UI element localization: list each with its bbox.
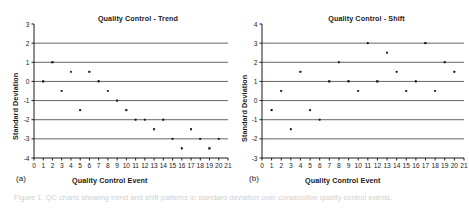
- x-tick-label: 21: [224, 162, 232, 169]
- panel-sublabel-b: (b): [249, 174, 259, 183]
- y-tick-label: 2: [26, 40, 30, 47]
- x-tick-label: 16: [412, 162, 420, 169]
- x-tick-label: 16: [178, 162, 186, 169]
- x-tick-label: 14: [160, 162, 168, 169]
- data-point: [300, 71, 302, 73]
- x-tick-label: 19: [206, 162, 214, 169]
- x-tick-label: 9: [115, 162, 119, 169]
- y-tick-label: -3: [252, 155, 258, 162]
- data-point: [61, 90, 63, 92]
- x-tick-label: 19: [441, 162, 449, 169]
- x-tick-label: 1: [41, 162, 45, 169]
- data-point: [98, 81, 100, 83]
- x-tick-label: 5: [78, 162, 82, 169]
- x-tick-label: 15: [169, 162, 177, 169]
- x-tick-label: 14: [393, 162, 401, 169]
- chart-panel-a: Quality Control - Trend Standard Deviati…: [0, 0, 232, 190]
- x-tick-label: 11: [364, 162, 371, 169]
- data-point: [396, 71, 398, 73]
- x-tick-label: 1: [270, 162, 274, 169]
- x-tick-label: 12: [374, 162, 382, 169]
- data-point: [454, 71, 456, 73]
- data-point: [425, 42, 427, 44]
- x-tick-label: 18: [431, 162, 439, 169]
- x-axis-label-b: Quality Control Event: [305, 176, 381, 185]
- y-tick-label: 4: [254, 21, 258, 28]
- data-point: [386, 52, 388, 54]
- data-point: [135, 119, 137, 121]
- x-tick-label: 3: [60, 162, 64, 169]
- y-tick-label: 3: [254, 40, 258, 47]
- y-tick-label: 1: [26, 59, 30, 66]
- y-tick-label: 1: [254, 78, 258, 85]
- data-point: [357, 90, 359, 92]
- x-tick-label: 10: [355, 162, 363, 169]
- y-axis-label-b: Standard Deviation: [240, 75, 249, 142]
- x-tick-label: 15: [403, 162, 411, 169]
- x-tick-label: 2: [279, 162, 283, 169]
- data-point: [144, 119, 146, 121]
- x-tick-label: 2: [51, 162, 55, 169]
- x-tick-label: 20: [451, 162, 459, 169]
- x-tick-label: 8: [106, 162, 110, 169]
- y-tick-label: 0: [26, 78, 30, 85]
- plot-area-b: -3-2-10123401234567891011121314151617181…: [232, 0, 469, 176]
- x-tick-label: 4: [69, 162, 73, 169]
- data-point: [79, 109, 81, 111]
- y-tick-label: -2: [252, 135, 258, 142]
- data-point: [271, 109, 273, 111]
- data-point: [377, 81, 379, 83]
- x-tick-label: 17: [187, 162, 195, 169]
- x-tick-label: 6: [318, 162, 322, 169]
- x-tick-label: 13: [383, 162, 391, 169]
- x-tick-label: 10: [123, 162, 131, 169]
- plot-area-a: -4-3-2-101230123456789101112131415161718…: [0, 0, 232, 176]
- x-tick-label: 21: [460, 162, 468, 169]
- data-point: [200, 138, 202, 140]
- data-point: [116, 100, 118, 102]
- data-point: [209, 148, 211, 150]
- x-tick-label: 8: [337, 162, 341, 169]
- data-point: [107, 90, 109, 92]
- y-tick-label: 0: [254, 97, 258, 104]
- y-tick-label: -4: [24, 155, 30, 162]
- x-tick-label: 3: [289, 162, 293, 169]
- data-point: [42, 81, 44, 83]
- data-point: [70, 71, 72, 73]
- data-point: [153, 129, 155, 131]
- x-tick-label: 18: [197, 162, 205, 169]
- data-point: [218, 138, 220, 140]
- x-tick-label: 11: [132, 162, 139, 169]
- figure-container: Quality Control - Trend Standard Deviati…: [0, 0, 469, 209]
- data-point: [348, 81, 350, 83]
- data-point: [290, 129, 292, 131]
- x-tick-label: 4: [299, 162, 303, 169]
- data-point: [434, 90, 436, 92]
- data-point: [444, 62, 446, 64]
- data-point: [172, 138, 174, 140]
- x-tick-label: 7: [327, 162, 331, 169]
- y-tick-label: -2: [24, 116, 30, 123]
- y-tick-label: 3: [26, 21, 30, 28]
- data-point: [89, 71, 91, 73]
- data-point: [309, 109, 311, 111]
- data-point: [190, 129, 192, 131]
- x-tick-label: 5: [308, 162, 312, 169]
- data-point: [338, 62, 340, 64]
- data-point: [406, 90, 408, 92]
- data-point: [52, 62, 54, 64]
- data-point: [319, 119, 321, 121]
- x-tick-label: 6: [88, 162, 92, 169]
- x-tick-label: 20: [215, 162, 223, 169]
- y-tick-label: -1: [252, 116, 258, 123]
- x-tick-label: 9: [347, 162, 351, 169]
- data-point: [126, 109, 128, 111]
- x-tick-label: 0: [260, 162, 264, 169]
- x-tick-label: 12: [141, 162, 149, 169]
- x-tick-label: 7: [97, 162, 101, 169]
- data-point: [329, 81, 331, 83]
- x-tick-label: 0: [32, 162, 36, 169]
- data-point: [280, 90, 282, 92]
- x-tick-label: 13: [150, 162, 158, 169]
- chart-panel-b: Quality Control - Shift -3-2-10123401234…: [232, 0, 469, 190]
